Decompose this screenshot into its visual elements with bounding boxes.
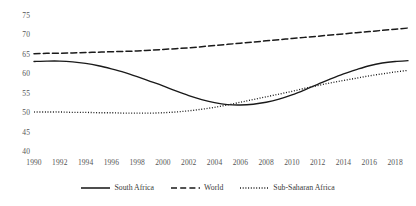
x-tick-label: 2016 [362,158,377,167]
y-tick-label: 60 [2,70,30,78]
y-tick-label: 40 [2,148,30,156]
legend-swatch-dotted-line-icon [240,184,269,192]
legend-label: South Africa [114,183,154,192]
legend-label: World [204,183,223,192]
legend-swatch-solid-line-icon [81,184,110,192]
x-tick-label: 1998 [129,158,144,167]
line-chart: 4045505560657075 19901992199419961998200… [0,0,416,206]
series-lines [34,16,408,152]
series-line-south-africa [34,61,408,105]
x-tick-label: 2002 [181,158,196,167]
y-axis: 4045505560657075 [0,16,30,152]
x-tick-label: 2010 [284,158,299,167]
y-tick-label: 70 [2,31,30,39]
plot-area [34,16,408,152]
chart-legend: South AfricaWorldSub-Saharan Africa [0,183,416,192]
legend-item[interactable]: World [171,183,223,192]
x-tick-label: 2006 [233,158,248,167]
x-tick-label: 2004 [207,158,222,167]
x-tick-label: 1992 [52,158,67,167]
x-tick-label: 1990 [26,158,41,167]
legend-label: Sub-Saharan Africa [273,183,334,192]
y-tick-label: 65 [2,51,30,59]
x-tick-label: 2012 [310,158,325,167]
series-line-sub-saharan-africa [34,70,408,113]
y-tick-label: 75 [2,12,30,20]
legend-item[interactable]: South Africa [81,183,154,192]
y-tick-label: 55 [2,90,30,98]
x-axis: 1990199219941996199820002002200420062008… [34,158,408,170]
x-tick-label: 1996 [104,158,119,167]
y-tick-label: 50 [2,109,30,117]
x-tick-label: 1994 [78,158,93,167]
legend-swatch-dashed-line-icon [171,184,200,192]
x-tick-label: 2000 [155,158,170,167]
x-tick-label: 2008 [258,158,273,167]
legend-item[interactable]: Sub-Saharan Africa [240,183,334,192]
x-tick-label: 2018 [387,158,402,167]
x-tick-label: 2014 [336,158,351,167]
series-line-world [34,28,408,54]
y-tick-label: 45 [2,129,30,137]
